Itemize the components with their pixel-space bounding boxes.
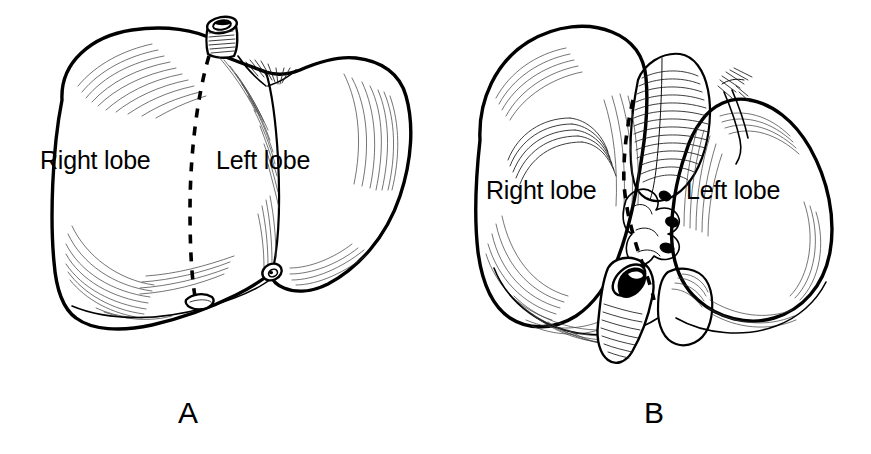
label-left-lobe-panel-b: Left lobe [686, 178, 780, 203]
liver-posteroinferior-drawing [436, 0, 871, 454]
round-ligament-ring-core [269, 271, 273, 274]
label-right-lobe-panel-a: Right lobe [40, 148, 151, 173]
panel-letter-a: A [178, 398, 198, 428]
inferior-vena-cava-stump [206, 15, 238, 58]
figure-root: Right lobe Left lobe A [0, 0, 871, 454]
liver-body-outline-group [52, 28, 411, 329]
panel-b-posteroinferior-view: Right lobe Left lobe B [436, 0, 871, 454]
label-right-lobe-panel-b: Right lobe [486, 178, 597, 203]
panel-a-anterior-view: Right lobe Left lobe A [0, 0, 436, 454]
gallbladder-b [597, 258, 653, 363]
panel-letter-b: B [644, 398, 664, 428]
label-left-lobe-panel-a: Left lobe [216, 148, 310, 173]
liver-anterior-drawing [0, 0, 436, 454]
gallbladder-fundus-a [186, 294, 214, 309]
left-lobe-outline-b [672, 99, 832, 321]
liver-anterior-outline [52, 28, 411, 329]
